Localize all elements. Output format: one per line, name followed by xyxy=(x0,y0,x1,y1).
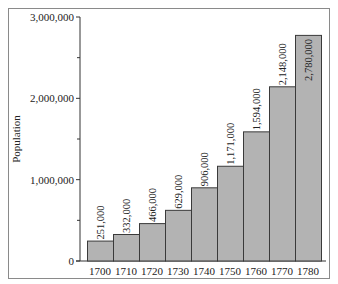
bar-value-label: 1,171,000 xyxy=(225,123,236,165)
bar-value-label: 2,780,000 xyxy=(303,39,314,81)
x-tick-label: 1770 xyxy=(271,265,294,277)
x-tick-label: 1720 xyxy=(141,265,164,277)
bar-value-label: 906,000 xyxy=(199,152,210,186)
y-axis-title: Population xyxy=(10,115,22,163)
y-tick-label: 2,000,000 xyxy=(30,92,75,104)
x-tick-label: 1740 xyxy=(193,265,216,277)
bar-value-label: 466,000 xyxy=(147,188,158,222)
x-tick-label: 1760 xyxy=(245,265,268,277)
x-tick-label: 1780 xyxy=(297,265,320,277)
bar-1700 xyxy=(88,241,114,261)
x-tick-label: 1700 xyxy=(89,265,112,277)
bar-1710 xyxy=(114,234,140,261)
bar-1770 xyxy=(270,87,296,261)
bar-1730 xyxy=(166,210,192,261)
bar-1740 xyxy=(192,188,218,261)
bar-value-label: 2,148,000 xyxy=(277,43,288,85)
bar-value-label: 1,594,000 xyxy=(251,88,262,130)
y-tick-label: 0 xyxy=(69,255,75,267)
x-tick-label: 1730 xyxy=(167,265,190,277)
x-tick-label: 1710 xyxy=(115,265,138,277)
bar-value-label: 251,000 xyxy=(95,205,106,239)
x-tick-label: 1750 xyxy=(219,265,242,277)
bar-value-label: 629,000 xyxy=(173,175,184,209)
y-tick-label: 3,000,000 xyxy=(30,11,75,23)
y-tick-label: 1,000,000 xyxy=(30,174,75,186)
bar-1760 xyxy=(244,132,270,261)
bar-1750 xyxy=(218,166,244,261)
population-bar-chart: 01,000,0002,000,0003,000,000Population25… xyxy=(0,0,338,284)
bar-1720 xyxy=(140,224,166,261)
bar-value-label: 332,000 xyxy=(121,199,132,233)
